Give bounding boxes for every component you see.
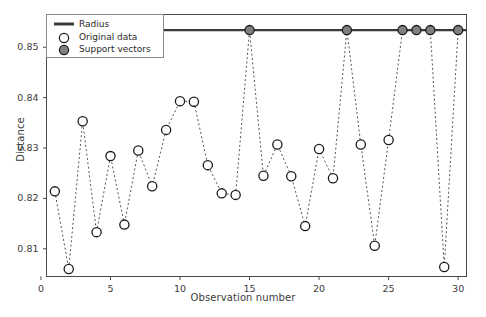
legend-original-data-swatch bbox=[59, 33, 68, 42]
data-point-marker bbox=[231, 190, 240, 199]
support-vector-marker bbox=[398, 26, 407, 35]
data-point-marker bbox=[50, 187, 59, 196]
data-point-marker bbox=[314, 144, 323, 153]
data-point-marker bbox=[356, 140, 365, 149]
y-tick-marks bbox=[43, 47, 47, 249]
y-tick-label: 0.84 bbox=[0, 92, 39, 103]
support-vector-marker bbox=[342, 26, 351, 35]
data-point-marker bbox=[148, 182, 157, 191]
support-vector-marker bbox=[245, 26, 254, 35]
x-tick-label: 10 bbox=[165, 283, 195, 294]
data-point-marker bbox=[189, 97, 198, 106]
y-tick-label: 0.83 bbox=[0, 142, 39, 153]
support-vector-marker bbox=[426, 26, 435, 35]
data-point-marker bbox=[106, 151, 115, 160]
legend-label-radius: Radius bbox=[79, 19, 109, 29]
chart-legend: Radius Original data Support vectors bbox=[46, 14, 164, 58]
y-axis-label: Distance bbox=[15, 100, 26, 180]
data-point-marker bbox=[301, 222, 310, 231]
support-vector-marker bbox=[454, 26, 463, 35]
data-point-marker bbox=[162, 125, 171, 134]
data-point-marker bbox=[134, 146, 143, 155]
chart-figure: Distance Observation number 0.810.820.83… bbox=[0, 0, 486, 317]
x-tick-label: 30 bbox=[443, 283, 473, 294]
data-point-marker bbox=[328, 174, 337, 183]
y-tick-label: 0.81 bbox=[0, 243, 39, 254]
x-tick-label: 5 bbox=[95, 283, 125, 294]
data-point-marker bbox=[120, 220, 129, 229]
data-point-marker bbox=[259, 171, 268, 180]
x-tick-label: 15 bbox=[235, 283, 265, 294]
y-tick-label: 0.82 bbox=[0, 192, 39, 203]
y-tick-label: 0.85 bbox=[0, 41, 39, 52]
x-tick-label: 20 bbox=[304, 283, 334, 294]
data-point-marker bbox=[370, 241, 379, 250]
legend-support-vectors-swatch bbox=[59, 45, 68, 54]
x-tick-label: 25 bbox=[374, 283, 404, 294]
data-point-marker bbox=[78, 117, 87, 126]
data-point-marker bbox=[384, 135, 393, 144]
x-tick-label: 0 bbox=[26, 283, 56, 294]
data-point-marker bbox=[92, 228, 101, 237]
data-point-marker bbox=[287, 172, 296, 181]
data-point-marker bbox=[64, 264, 73, 273]
data-point-marker bbox=[175, 97, 184, 106]
data-point-marker bbox=[217, 189, 226, 198]
support-vector-marker bbox=[412, 26, 421, 35]
data-point-marker bbox=[273, 140, 282, 149]
data-point-marker bbox=[440, 262, 449, 271]
x-axis-label: Observation number bbox=[0, 292, 486, 303]
legend-label-support-vectors: Support vectors bbox=[79, 44, 151, 54]
legend-label-original-data: Original data bbox=[79, 32, 137, 42]
x-tick-marks bbox=[41, 277, 458, 281]
data-point-marker bbox=[203, 161, 212, 170]
